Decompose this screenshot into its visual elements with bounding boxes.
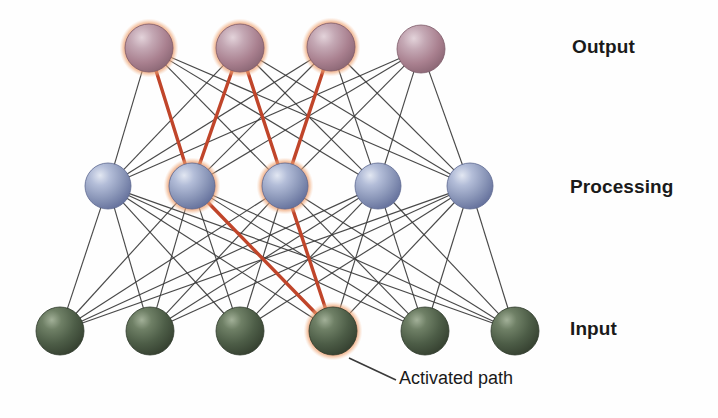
node-output-1[interactable] [216,24,264,72]
layer-label-input: Input [570,318,617,340]
connection-edge [393,202,499,314]
connection-edge [170,57,450,177]
node-processing-0[interactable] [85,163,131,209]
connection-edge [114,70,142,165]
callout-leader-line [349,358,396,380]
layer-label-output: Output [572,36,635,58]
connection-edge [156,207,185,309]
node-processing-1[interactable] [169,163,215,209]
node-processing-2[interactable] [262,163,308,209]
connection-edge [75,202,177,314]
network-nodes [36,18,539,361]
connection-edge [300,202,409,315]
node-output-0[interactable] [125,24,173,72]
node-input-2[interactable] [216,307,264,355]
network-graphic [0,0,718,418]
connection-edge [300,65,404,170]
connection-edge [123,202,225,314]
connection-edge [212,195,494,322]
layer-label-processing: Processing [570,176,673,198]
connection-edge [477,207,509,309]
connection-edge [432,207,464,309]
node-input-0[interactable] [36,307,84,355]
connection-edge [347,63,454,170]
node-input-5[interactable] [491,307,539,355]
connection-edge [429,71,463,166]
node-input-3[interactable] [309,307,357,355]
connection-edge [67,207,101,309]
node-output-2[interactable] [307,23,355,71]
node-input-4[interactable] [401,307,449,355]
node-processing-3[interactable] [355,163,401,209]
node-processing-4[interactable] [447,163,493,209]
connection-edge [128,195,404,321]
node-output-3[interactable] [397,25,445,73]
activated-path-callout-label: Activated path [399,368,513,389]
connection-edge [123,65,224,170]
neural-network-diagram: Output Processing Input Activated path [0,0,718,418]
connection-edge [260,60,451,175]
activated-edge [156,70,186,165]
connection-edge [304,198,496,319]
node-input-1[interactable] [126,307,174,355]
